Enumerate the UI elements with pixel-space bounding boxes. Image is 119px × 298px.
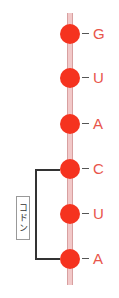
base-dot <box>60 204 80 224</box>
base-letter: G <box>93 24 105 44</box>
base-letter: U <box>93 68 104 88</box>
base-node: U <box>0 68 119 88</box>
connector-line <box>82 213 89 214</box>
connector-line <box>82 33 89 34</box>
connector-line <box>82 123 89 124</box>
base-node: G <box>0 24 119 44</box>
base-node: A <box>0 114 119 134</box>
base-letter: C <box>93 159 104 179</box>
mrna-strand <box>67 13 73 285</box>
base-letter: A <box>93 249 103 269</box>
base-letter: A <box>93 114 103 134</box>
connector-line <box>82 258 89 259</box>
base-dot <box>60 68 80 88</box>
codon-label: コドン <box>16 196 30 240</box>
connector-line <box>82 168 89 169</box>
connector-line <box>82 77 89 78</box>
base-dot <box>60 114 80 134</box>
base-letter: U <box>93 204 104 224</box>
base-dot <box>60 249 80 269</box>
codon-bracket <box>35 169 60 260</box>
base-dot <box>60 24 80 44</box>
base-dot <box>60 159 80 179</box>
